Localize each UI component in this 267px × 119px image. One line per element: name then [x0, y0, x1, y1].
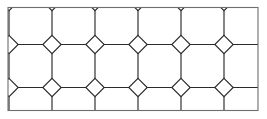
- figure-background: [0, 0, 267, 119]
- tiling-canvas: [0, 0, 267, 119]
- tiling-figure: [0, 0, 267, 119]
